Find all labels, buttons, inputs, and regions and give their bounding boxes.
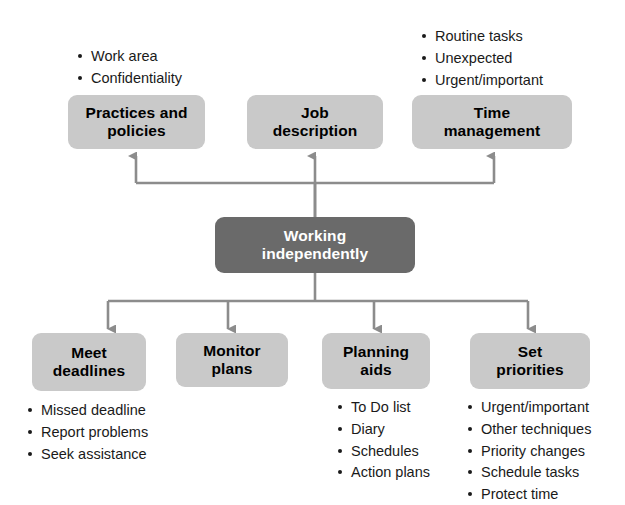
- bullets-meet-deadlines: Missed deadline Report problems Seek ass…: [26, 400, 148, 465]
- bullets-practices-and-policies: Work area Confidentiality: [76, 46, 182, 90]
- node-working-independently[interactable]: Working independently: [215, 217, 415, 273]
- list-item: Seek assistance: [26, 444, 148, 466]
- list-item: Other techniques: [466, 419, 591, 441]
- list-item: Schedules: [336, 441, 430, 463]
- bullets-set-priorities: Urgent/important Other techniques Priori…: [466, 397, 591, 505]
- node-label: Working independently: [256, 227, 374, 264]
- node-time-management[interactable]: Time management: [412, 95, 572, 149]
- bullets-time-management: Routine tasks Unexpected Urgent/importan…: [420, 26, 543, 91]
- list-item: Priority changes: [466, 441, 591, 463]
- working-independently-diagram: Work area Confidentiality Routine tasks …: [0, 0, 625, 505]
- node-job-description[interactable]: Job description: [247, 95, 383, 149]
- list-item: Routine tasks: [420, 26, 543, 48]
- list-item: Confidentiality: [76, 68, 182, 90]
- list-item: Action plans: [336, 462, 430, 484]
- list-item: Schedule tasks: [466, 462, 591, 484]
- list-item: Work area: [76, 46, 182, 68]
- node-meet-deadlines[interactable]: Meet deadlines: [32, 333, 146, 391]
- list-item: Protect time: [466, 484, 591, 505]
- bullets-planning-aids: To Do list Diary Schedules Action plans: [336, 397, 430, 484]
- node-label: Job description: [267, 104, 364, 141]
- node-monitor-plans[interactable]: Monitor plans: [176, 333, 288, 387]
- node-practices-and-policies[interactable]: Practices and policies: [68, 95, 205, 149]
- list-item: Urgent/important: [466, 397, 591, 419]
- node-set-priorities[interactable]: Set priorities: [470, 333, 590, 389]
- list-item: Urgent/important: [420, 70, 543, 92]
- node-label: Time management: [438, 104, 547, 141]
- node-label: Planning aids: [337, 343, 415, 380]
- list-item: Unexpected: [420, 48, 543, 70]
- list-item: Missed deadline: [26, 400, 148, 422]
- list-item: Diary: [336, 419, 430, 441]
- list-item: Report problems: [26, 422, 148, 444]
- node-label: Practices and policies: [79, 104, 193, 141]
- node-label: Meet deadlines: [47, 344, 131, 381]
- list-item: To Do list: [336, 397, 430, 419]
- node-label: Set priorities: [490, 343, 569, 380]
- node-planning-aids[interactable]: Planning aids: [322, 333, 430, 389]
- node-label: Monitor plans: [197, 342, 267, 379]
